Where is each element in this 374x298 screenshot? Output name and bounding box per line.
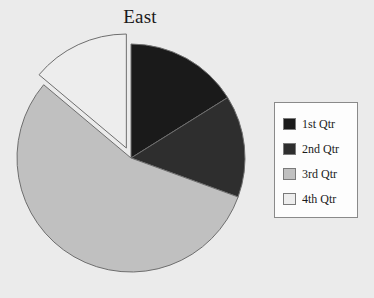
legend-item-label: 4th Qtr bbox=[302, 193, 336, 206]
legend-item[interactable]: 4th Qtr bbox=[283, 187, 359, 211]
chart-legend: 1st Qtr2nd Qtr3rd Qtr4th Qtr bbox=[274, 102, 358, 218]
pie-chart-figure: East 1st Qtr2nd Qtr3rd Qtr4th Qtr bbox=[0, 0, 374, 298]
legend-item[interactable]: 1st Qtr bbox=[283, 112, 359, 136]
legend-swatch-icon bbox=[283, 193, 296, 205]
legend-swatch-icon bbox=[283, 118, 296, 130]
pie-slice-group bbox=[17, 34, 245, 272]
legend-item-label: 3rd Qtr bbox=[302, 168, 337, 181]
legend-swatch-icon bbox=[283, 143, 296, 155]
legend-swatch-icon bbox=[283, 168, 296, 180]
legend-item[interactable]: 2nd Qtr bbox=[283, 137, 359, 161]
legend-item-label: 2nd Qtr bbox=[302, 143, 339, 156]
legend-item-list: 1st Qtr2nd Qtr3rd Qtr4th Qtr bbox=[283, 112, 359, 212]
legend-item-label: 1st Qtr bbox=[302, 118, 335, 131]
legend-item[interactable]: 3rd Qtr bbox=[283, 162, 359, 186]
